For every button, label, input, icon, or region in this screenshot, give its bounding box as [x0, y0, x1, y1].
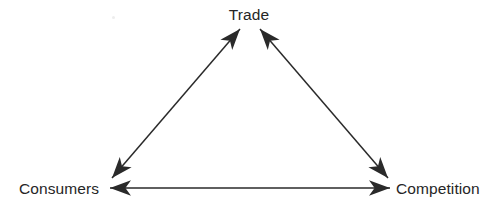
edge-trade-competition	[260, 29, 388, 178]
node-label-competition: Competition	[396, 181, 480, 197]
edge-consumers-trade	[112, 29, 240, 178]
node-label-consumers: Consumers	[19, 181, 99, 197]
diagram-canvas: Trade Consumers Competition	[0, 0, 498, 214]
node-label-trade: Trade	[0, 7, 498, 23]
